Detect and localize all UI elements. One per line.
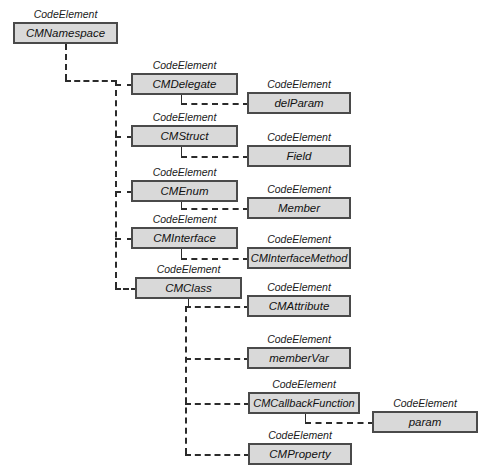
node-cmclass-stereotype: CodeElement	[135, 263, 242, 275]
node-delparam-stereotype: CodeElement	[247, 78, 351, 90]
node-cmdelegate-box[interactable]: CMDelegate	[131, 73, 238, 95]
edge-cmclass-cmproperty-horizontal	[185, 454, 250, 456]
node-cmproperty-box[interactable]: CMProperty	[248, 443, 352, 465]
node-membervar-stereotype: CodeElement	[247, 333, 351, 345]
node-cminterface-box[interactable]: CMInterface	[131, 227, 238, 249]
node-field-stereotype: CodeElement	[247, 131, 351, 143]
edge-cmclass-cmattribute-horizontal	[185, 306, 250, 308]
node-cmcallbackfunction-box[interactable]: CMCallbackFunction	[248, 392, 360, 414]
trunk-vertical-line	[115, 80, 117, 288]
edge-cmcallbackfunction-param-drop	[305, 414, 306, 422]
edge-cminterface-cminterfacemethod-drop	[181, 249, 182, 258]
edge-cmdelegate-delparam-horizontal	[181, 103, 249, 105]
edge-cmnamespace-trunk-horizontal	[65, 80, 117, 82]
code-element-diagram: CodeElement CMNamespace CodeElement CMDe…	[0, 0, 478, 476]
node-cmcallbackfunction-stereotype: CodeElement	[248, 378, 360, 390]
edge-cmclass-membervar-horizontal	[185, 358, 250, 360]
node-param-box[interactable]: param	[372, 411, 478, 433]
node-delparam-box[interactable]: delParam	[247, 92, 351, 114]
node-cmstruct-stereotype: CodeElement	[131, 111, 238, 123]
edge-cmstruct-field-drop	[181, 147, 182, 156]
node-field-box[interactable]: Field	[247, 145, 351, 167]
node-cmstruct-box[interactable]: CMStruct	[131, 125, 238, 147]
node-cmenum-stereotype: CodeElement	[131, 166, 238, 178]
node-cmenum-box[interactable]: CMEnum	[131, 180, 238, 202]
node-membervar-box[interactable]: memberVar	[247, 347, 351, 369]
node-cmnamespace-stereotype: CodeElement	[13, 8, 118, 20]
node-cmnamespace-box[interactable]: CMNamespace	[13, 22, 118, 44]
node-cminterfacemethod-stereotype: CodeElement	[247, 233, 351, 245]
edge-cmnamespace-trunk-vertical	[65, 44, 67, 80]
edge-cmstruct-field-horizontal	[181, 156, 249, 158]
edge-cmenum-member-horizontal	[181, 208, 249, 210]
node-cmattribute-box[interactable]: CMAttribute	[247, 295, 351, 317]
edge-cmcallbackfunction-param-horizontal	[305, 422, 374, 424]
node-member-stereotype: CodeElement	[247, 183, 351, 195]
node-cminterfacemethod-box[interactable]: CMInterfaceMethod	[247, 247, 351, 269]
edge-cmclass-cmcallbackfunction-horizontal	[185, 403, 250, 405]
edge-cmclass-fanout-vertical	[185, 306, 187, 454]
node-param-stereotype: CodeElement	[372, 397, 478, 409]
node-cmattribute-stereotype: CodeElement	[247, 281, 351, 293]
node-cmproperty-stereotype: CodeElement	[248, 429, 352, 441]
node-cmdelegate-stereotype: CodeElement	[131, 59, 238, 71]
edge-trunk-cmclass-stub	[115, 288, 137, 290]
node-member-box[interactable]: Member	[247, 197, 351, 219]
edge-cminterface-cminterfacemethod-horizontal	[181, 258, 249, 260]
node-cmclass-box[interactable]: CMClass	[135, 277, 242, 299]
node-cminterface-stereotype: CodeElement	[131, 213, 238, 225]
